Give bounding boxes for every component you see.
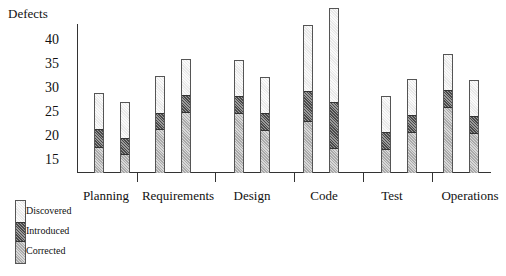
bar-segment-corrected (182, 113, 190, 173)
bar-segment-discovered (156, 77, 164, 113)
x-tick (215, 173, 216, 182)
y-tick-label: 20 (33, 128, 59, 144)
x-tick (294, 173, 295, 182)
stacked-bar (155, 76, 165, 173)
category-label: Planning (83, 188, 129, 204)
stacked-bar (443, 54, 453, 173)
legend-swatch-corrected (16, 242, 25, 263)
stacked-bar (120, 102, 130, 173)
category-label: Requirements (142, 188, 214, 204)
bar-segment-discovered (470, 81, 478, 116)
bar-segment-discovered (444, 55, 452, 90)
bar-segment-discovered (182, 60, 190, 95)
bar-segment-introduced (470, 116, 478, 134)
stacked-bar (407, 79, 417, 173)
bar-segment-discovered (382, 97, 390, 132)
legend-label-discovered: Discovered (26, 205, 72, 216)
bar-segment-discovered (330, 9, 338, 102)
bar-segment-discovered (235, 61, 243, 96)
x-axis (77, 172, 491, 173)
bar-segment-introduced (121, 138, 129, 155)
bar-segment-corrected (330, 149, 338, 173)
bar-segment-discovered (261, 78, 269, 113)
bar-segment-introduced (156, 113, 164, 130)
stacked-bar (181, 59, 191, 173)
y-tick-label: 40 (33, 32, 59, 48)
bar-segment-introduced (382, 132, 390, 150)
bar-segment-corrected (235, 114, 243, 173)
stacked-bar (469, 80, 479, 173)
y-axis (77, 24, 78, 172)
bar-segment-introduced (330, 102, 338, 149)
bar-segment-discovered (408, 80, 416, 115)
y-axis-label: Defects (8, 6, 48, 22)
bar-segment-introduced (444, 90, 452, 108)
bar-segment-corrected (95, 148, 103, 173)
stacked-bar (329, 8, 339, 173)
bar-segment-corrected (261, 131, 269, 173)
legend-swatch-introduced (16, 222, 25, 243)
bar-segment-introduced (304, 91, 312, 122)
bar-segment-corrected (408, 133, 416, 173)
y-tick-label: 30 (33, 80, 59, 96)
stacked-bar (381, 96, 391, 173)
bar-segment-introduced (408, 115, 416, 133)
bar-segment-corrected (382, 150, 390, 173)
bar-segment-discovered (121, 103, 129, 138)
legend-label-introduced: Introduced (26, 225, 69, 236)
category-label: Test (381, 188, 402, 204)
x-tick (137, 173, 138, 182)
bar-segment-corrected (304, 122, 312, 173)
bar-segment-introduced (261, 113, 269, 131)
y-tick-label: 15 (33, 152, 59, 168)
x-tick (432, 173, 433, 182)
legend-label-corrected: Corrected (26, 245, 65, 256)
legend-swatch-discovered (16, 201, 25, 222)
bar-segment-discovered (95, 94, 103, 129)
legend-swatch (15, 200, 26, 264)
bar-segment-corrected (470, 134, 478, 173)
bar-segment-corrected (121, 155, 129, 173)
bar-segment-discovered (304, 26, 312, 91)
bar-segment-corrected (444, 108, 452, 173)
stacked-bar (303, 25, 313, 173)
bar-segment-introduced (95, 129, 103, 148)
bar-segment-introduced (182, 95, 190, 113)
stacked-bar (234, 60, 244, 173)
category-label: Operations (441, 188, 498, 204)
stacked-bar (260, 77, 270, 173)
y-tick-label: 25 (33, 104, 59, 120)
stacked-bar (94, 93, 104, 173)
bar-segment-introduced (235, 96, 243, 114)
x-tick (363, 173, 364, 182)
category-label: Code (310, 188, 337, 204)
category-label: Design (234, 188, 271, 204)
bar-segment-corrected (156, 130, 164, 173)
y-tick-label: 35 (33, 56, 59, 72)
